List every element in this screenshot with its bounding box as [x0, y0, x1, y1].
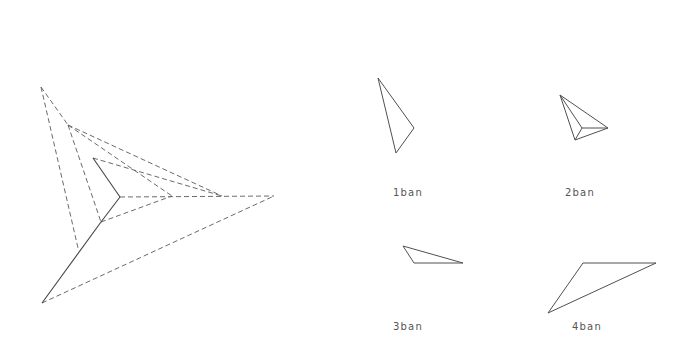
solid-segment-MP [42, 222, 101, 303]
solid-segment-CO [93, 158, 120, 197]
main-construction-diagram [41, 87, 274, 303]
dashed-segment-BM [68, 125, 101, 222]
dashed-segment-MD [101, 196, 172, 222]
inner-line-2ban-0 [560, 95, 582, 128]
dashed-segment-OF [120, 196, 274, 197]
dashed-segment-AL [41, 87, 78, 248]
triangle-1ban [378, 78, 414, 153]
panel-label-2ban: 2ban [565, 187, 595, 198]
triangle-3ban [403, 246, 463, 263]
panel-label-4ban: 4ban [572, 321, 602, 332]
dashed-segment-PF [42, 196, 274, 303]
panel-label-1ban: 1ban [393, 187, 423, 198]
triangle-4ban [548, 263, 656, 313]
triangle-2ban [560, 95, 608, 140]
dashed-segment-CE [93, 158, 222, 196]
dashed-segment-BD [68, 125, 172, 196]
panel-label-3ban: 3ban [393, 321, 423, 332]
diagram-canvas [0, 0, 691, 362]
dashed-segment-BE [68, 125, 222, 196]
